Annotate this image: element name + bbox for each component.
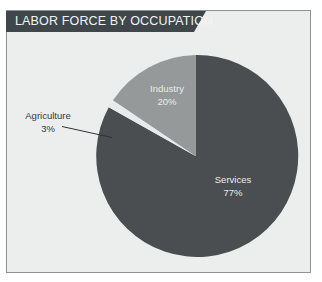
- page-title: LABOR FORCE BY OCCUPATION: [15, 11, 213, 32]
- pie-value-services: 77%: [223, 187, 243, 198]
- pie-label-services: Services: [215, 174, 252, 185]
- pie-value-agriculture: 3%: [41, 123, 55, 134]
- pie-label-agriculture: Agriculture: [25, 110, 70, 121]
- pie-chart: Industry 20% Services 77% Agriculture 3%: [0, 0, 322, 282]
- pie-value-industry: 20%: [157, 96, 177, 107]
- title-banner: LABOR FORCE BY OCCUPATION: [6, 11, 206, 32]
- pie-label-industry: Industry: [150, 83, 184, 94]
- chart-figure: Industry 20% Services 77% Agriculture 3%…: [0, 0, 322, 282]
